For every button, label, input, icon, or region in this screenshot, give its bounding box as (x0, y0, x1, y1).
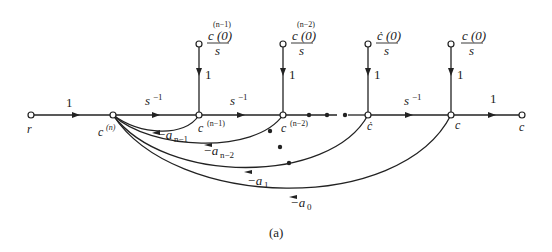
node-ic-3 (365, 41, 371, 47)
arrow-ic-4-icon (448, 68, 454, 76)
fb-label-a1: −a 1 (247, 173, 269, 190)
ellipsis-dot (278, 145, 282, 149)
svg-text:c (0): c (0) (208, 28, 232, 43)
label-c: c (455, 118, 461, 132)
ellipsis-dot (307, 113, 311, 117)
arrow-cn1-cn2-icon (237, 112, 245, 118)
label-cn2-sup: (n−2) (290, 119, 308, 128)
node-ic-4 (448, 41, 454, 47)
arrow-r-cn-icon (72, 112, 80, 118)
svg-text:0: 0 (307, 202, 312, 212)
node-ic-2 (280, 41, 286, 47)
arrow-ic-2-icon (280, 68, 286, 76)
label-r: r (27, 122, 32, 136)
svg-text:1: 1 (205, 67, 212, 82)
svg-text:ċ (0): ċ (0) (377, 28, 401, 43)
svg-text:c (0): c (0) (462, 28, 486, 43)
svg-text:−a: −a (157, 127, 173, 142)
ic-label-1: (n−1) c (0) s 1 (205, 20, 232, 82)
node-cn1 (196, 112, 202, 118)
label-cn-sup: (n) (106, 123, 116, 132)
svg-text:−a: −a (290, 195, 306, 210)
ic-label-4: c (0) s 1 (457, 28, 486, 82)
gain-cn1-cn2-exp: −1 (238, 92, 248, 102)
gain-cn-cn1-exp: −1 (153, 92, 163, 102)
svg-text:s: s (215, 43, 220, 58)
arrow-c-out-icon (488, 112, 496, 118)
fb-label-a0: −a 0 (290, 195, 312, 212)
feedback-arc-a1 (113, 115, 368, 168)
node-c-out (519, 112, 525, 118)
figure-caption: (a) (269, 225, 283, 240)
label-cn: c (98, 125, 104, 139)
arrow-ic-1-icon (196, 68, 202, 76)
gain-cn-cn1: s (145, 93, 150, 108)
arrow-ic-3-icon (365, 68, 371, 76)
label-c-out: c (519, 120, 525, 134)
svg-text:n−2: n−2 (220, 150, 234, 160)
label-cn1: c (198, 121, 204, 135)
arrow-cdot-c-icon (405, 112, 413, 118)
svg-text:n−1: n−1 (174, 134, 188, 144)
svg-text:s: s (384, 43, 389, 58)
ellipsis-dot (343, 113, 347, 117)
label-cn2: c (281, 121, 287, 135)
svg-text:−a: −a (247, 173, 263, 188)
label-cn1-sup: (n−1) (207, 119, 225, 128)
svg-text:1: 1 (264, 180, 269, 190)
fb-label-an2: −a n−2 (203, 143, 234, 160)
svg-text:1: 1 (457, 67, 464, 82)
gain-cn1-cn2: s (230, 93, 235, 108)
ic-label-3: ċ (0) s 1 (374, 28, 401, 82)
svg-text:−a: −a (203, 143, 219, 158)
label-cdot: ċ (367, 119, 373, 133)
node-ic-1 (196, 41, 202, 47)
gain-cdot-c: s (404, 93, 409, 108)
node-cn (110, 112, 116, 118)
svg-text:1: 1 (374, 67, 381, 82)
svg-text:s: s (299, 43, 304, 58)
arrow-cn-cn1-icon (152, 112, 160, 118)
gain-c-out: 1 (490, 91, 497, 106)
fb-label-an1: −a n−1 (157, 127, 188, 144)
signal-flow-graph: r c (n) c (n−1) c (n−2) ċ c c 1 s −1 s −… (0, 0, 552, 252)
gain-r-cn: 1 (66, 95, 73, 110)
ic-label-2: (n−2) c (0) s 1 (289, 20, 316, 82)
gain-cdot-c-exp: −1 (412, 92, 422, 102)
node-r (28, 112, 34, 118)
svg-text:s: s (469, 43, 474, 58)
ellipsis-dot (325, 113, 329, 117)
node-c (448, 112, 454, 118)
ellipsis-dot (268, 129, 272, 133)
node-cdot (365, 112, 371, 118)
svg-text:c (0): c (0) (292, 28, 316, 43)
svg-text:1: 1 (289, 67, 296, 82)
node-cn2 (280, 112, 286, 118)
